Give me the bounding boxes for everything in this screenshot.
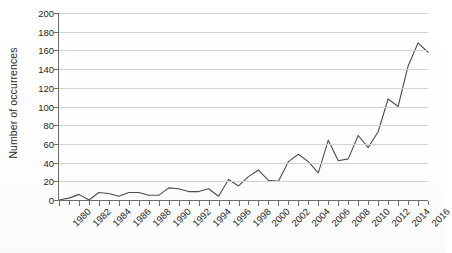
x-tick-label-2000: 2000 <box>270 206 293 229</box>
y-tick-mark-140 <box>54 69 59 70</box>
y-tick-label-40: 40 <box>43 157 54 168</box>
y-tick-label-20: 20 <box>43 176 54 187</box>
gridline-80 <box>59 125 428 126</box>
gridline-200 <box>59 13 428 14</box>
x-tick-label-1988: 1988 <box>150 206 173 229</box>
y-tick-mark-20 <box>54 181 59 182</box>
gridline-40 <box>59 163 428 164</box>
gridline-100 <box>59 107 428 108</box>
y-axis-title-text: Number of occurrences <box>7 47 19 158</box>
x-tick-label-1984: 1984 <box>110 206 133 229</box>
gridline-20 <box>59 181 428 182</box>
y-tick-label-200: 200 <box>38 8 54 19</box>
y-tick-mark-80 <box>54 125 59 126</box>
gridline-180 <box>59 32 428 33</box>
x-tick-label-2008: 2008 <box>349 206 372 229</box>
x-tick-label-2014: 2014 <box>409 206 432 229</box>
y-tick-mark-60 <box>54 144 59 145</box>
x-tick-label-2012: 2012 <box>389 206 412 229</box>
y-tick-label-160: 160 <box>38 45 54 56</box>
x-tick-label-1996: 1996 <box>230 206 253 229</box>
y-tick-label-60: 60 <box>43 138 54 149</box>
x-tick-label-1986: 1986 <box>130 206 153 229</box>
x-tick-label-1992: 1992 <box>190 206 213 229</box>
x-tick-label-2006: 2006 <box>329 206 352 229</box>
plot-area <box>59 13 428 200</box>
y-tick-label-140: 140 <box>38 64 54 75</box>
x-tick-label-2010: 2010 <box>369 206 392 229</box>
x-tick-label-1990: 1990 <box>170 206 193 229</box>
y-tick-mark-100 <box>54 107 59 108</box>
x-tick-label-1982: 1982 <box>90 206 113 229</box>
y-axis-tick-marks <box>54 13 59 201</box>
y-tick-label-180: 180 <box>38 26 54 37</box>
series-polyline <box>59 43 428 200</box>
x-tick-label-1998: 1998 <box>250 206 273 229</box>
x-tick-label-2002: 2002 <box>290 206 313 229</box>
x-axis-tick-labels: 1980198219841986198819901992199419961998… <box>0 204 445 249</box>
y-tick-mark-180 <box>54 32 59 33</box>
y-tick-mark-40 <box>54 163 59 164</box>
gridline-120 <box>59 88 428 89</box>
gridline-160 <box>59 50 428 51</box>
x-tick-label-1980: 1980 <box>70 206 93 229</box>
y-tick-mark-200 <box>54 13 59 14</box>
y-tick-mark-120 <box>54 88 59 89</box>
gridline-60 <box>59 144 428 145</box>
y-axis-title: Number of occurrences <box>2 0 24 205</box>
x-tick-label-1994: 1994 <box>210 206 233 229</box>
y-tick-label-100: 100 <box>38 101 54 112</box>
y-tick-mark-160 <box>54 50 59 51</box>
y-tick-label-120: 120 <box>38 82 54 93</box>
x-tick-label-2016: 2016 <box>429 206 452 229</box>
x-tick-label-2004: 2004 <box>310 206 333 229</box>
y-tick-label-80: 80 <box>43 120 54 131</box>
gridline-140 <box>59 69 428 70</box>
